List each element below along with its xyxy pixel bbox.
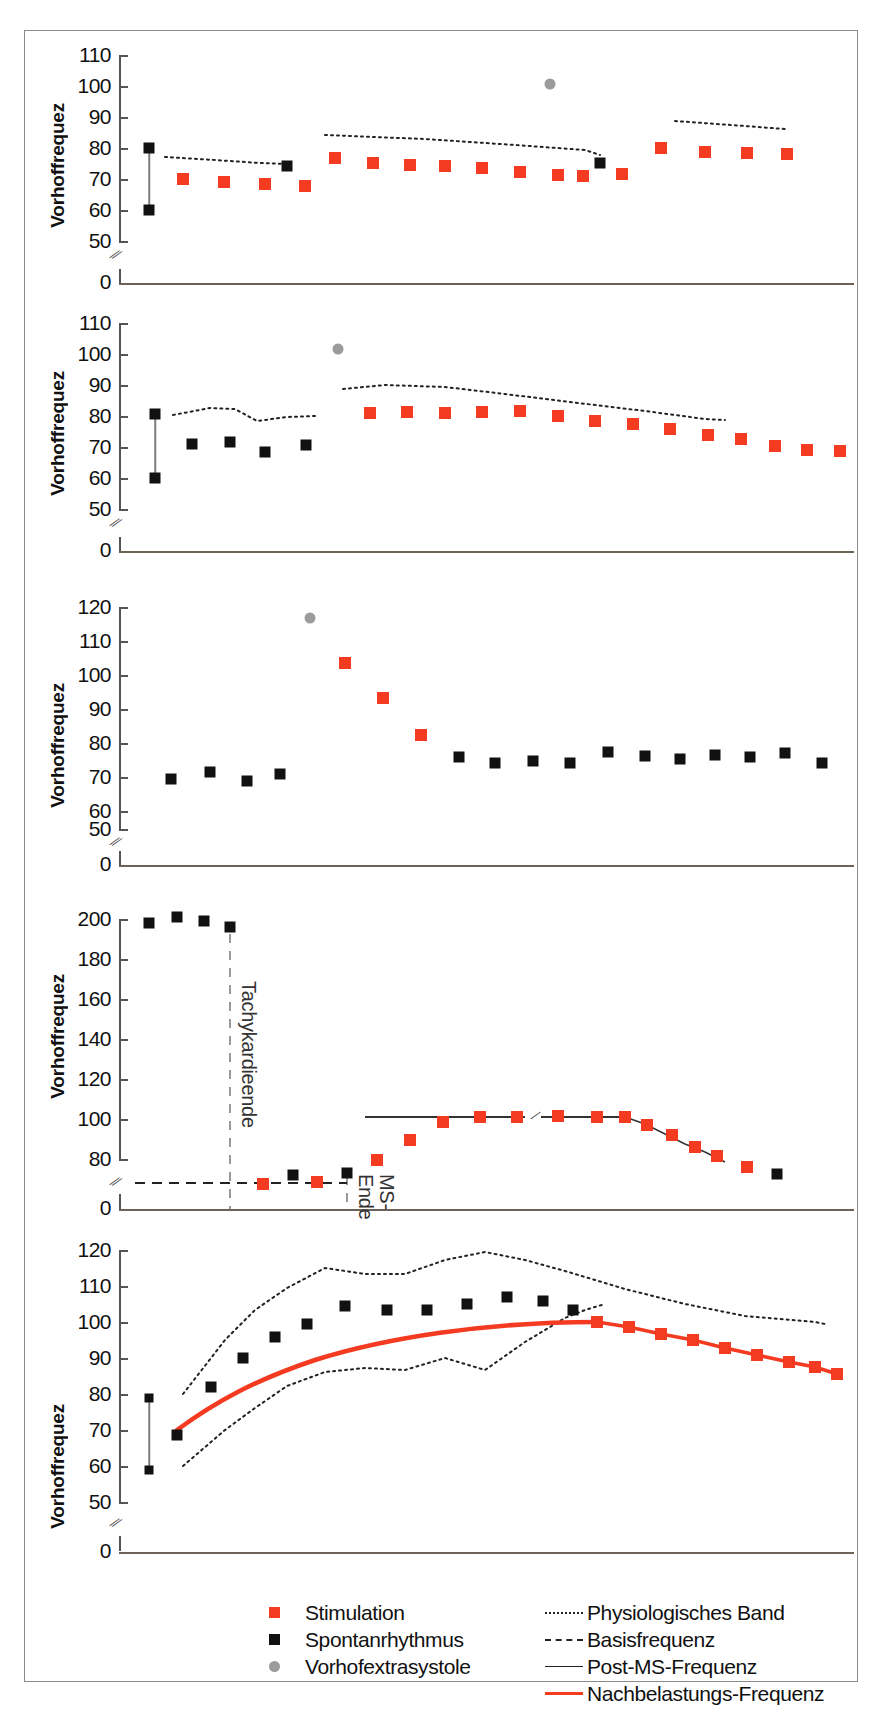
spontanrhythmus-point: [150, 409, 161, 420]
spontanrhythmus-point: [454, 752, 465, 763]
stimulation-point: [589, 415, 601, 427]
legend-column-markers: Stimulation Spontanrhythmus Vorhofextras…: [261, 1599, 471, 1680]
spontanrhythmus-point: [817, 758, 828, 769]
figure-legend: Stimulation Spontanrhythmus Vorhofextras…: [261, 1599, 861, 1707]
spontanrhythmus-point: [538, 1296, 549, 1307]
stimulation-point: [831, 1368, 843, 1380]
legend-item-stimulation: Stimulation: [261, 1599, 471, 1626]
stimulation-point: [809, 1361, 821, 1373]
stimulation-point: [377, 692, 389, 704]
spontanrhythmus-point: [206, 1382, 217, 1393]
spontanrhythmus-point: [145, 1466, 154, 1475]
spontanrhythmus-point: [301, 440, 312, 451]
spontanrhythmus-point: [205, 767, 216, 778]
spontanrhythmus-point: [270, 1332, 281, 1343]
stimulation-point: [364, 407, 376, 419]
stimulation-point: [741, 1161, 753, 1173]
red-line-icon: [543, 1692, 587, 1695]
stimulation-point: [474, 1111, 486, 1123]
stimulation-point: [404, 1134, 416, 1146]
spontanrhythmus-point: [282, 161, 293, 172]
spontanrhythmus-point: [225, 437, 236, 448]
panel-3-tick: [119, 607, 128, 609]
panel-3-axis-break-icon: ⁄⁄: [111, 833, 122, 851]
stimulation-point: [552, 410, 564, 422]
spontanrhythmus-point: [342, 1168, 353, 1179]
stimulation-point: [591, 1316, 603, 1328]
stimulation-point: [735, 433, 747, 445]
spontanrhythmus-point: [144, 143, 155, 154]
legend-item-post-ms-frequenz: Post-MS-Frequenz: [543, 1653, 824, 1680]
stimulation-point: [218, 176, 230, 188]
stimulation-point: [329, 152, 341, 164]
stimulation-point: [719, 1342, 731, 1354]
spontanrhythmus-point: [675, 754, 686, 765]
legend-label: Physiologisches Band: [587, 1601, 784, 1625]
dashed-line-icon: [543, 1639, 587, 1641]
stimulation-point: [514, 166, 526, 178]
stimulation-point: [577, 170, 589, 182]
panel-2-series-layer: [25, 299, 859, 557]
spontanrhythmus-point: [422, 1305, 433, 1316]
spontanrhythmus-point: [242, 776, 253, 787]
panel-3-ytick-110: 110: [49, 629, 111, 653]
square-black-icon: [261, 1634, 305, 1645]
spontanrhythmus-point: [603, 747, 614, 758]
figure-frame: Vorhoffrequez 110 100 90 80 70 60 50 0 ⁄…: [24, 30, 858, 1682]
panel-3-tick: [119, 641, 128, 643]
stimulation-point: [769, 440, 781, 452]
panel-4-plot: 200 180 160 140 120 100 80 0 ⁄⁄: [25, 886, 859, 1216]
stimulation-point: [699, 146, 711, 158]
panel-2-range-bar: [154, 414, 156, 478]
spontanrhythmus-point: [187, 439, 198, 450]
legend-item-physiologisches-band: Physiologisches Band: [543, 1599, 824, 1626]
legend-label: Spontanrhythmus: [305, 1628, 464, 1652]
spontanrhythmus-point: [568, 1305, 579, 1316]
stimulation-point: [257, 1178, 269, 1190]
panel-3-ytick-80: 80: [49, 731, 111, 755]
spontanrhythmus-point: [490, 758, 501, 769]
stimulation-point: [511, 1111, 523, 1123]
panel-4: Vorhoffrequez 200 180 160 140 120 100 80…: [25, 886, 859, 1216]
spontanrhythmus-point: [745, 752, 756, 763]
spontanrhythmus-point: [772, 1169, 783, 1180]
stimulation-point: [552, 169, 564, 181]
spontanrhythmus-point: [780, 748, 791, 759]
stimulation-point: [259, 178, 271, 190]
panel-3-ytick-100: 100: [49, 663, 111, 687]
vorhofextrasystole-point: [545, 79, 556, 90]
stimulation-point: [666, 1129, 678, 1141]
stimulation-point: [476, 406, 488, 418]
stimulation-point: [514, 405, 526, 417]
stimulation-point: [627, 418, 639, 430]
spontanrhythmus-point: [275, 769, 286, 780]
dotted-line-icon: [543, 1612, 587, 1614]
panel-2: Vorhoffrequez 110 100 90 80 70 60 50 0 ⁄…: [25, 299, 859, 557]
spontanrhythmus-point: [260, 447, 271, 458]
vorhofextrasystole-point: [333, 344, 344, 355]
stimulation-point: [404, 159, 416, 171]
stimulation-point: [339, 657, 351, 669]
stimulation-point: [439, 160, 451, 172]
stimulation-point: [711, 1150, 723, 1162]
stimulation-point: [415, 729, 427, 741]
panel-1: Vorhoffrequez 110 100 90 80 70 60 50 0 ⁄…: [25, 31, 859, 289]
stimulation-point: [552, 1110, 564, 1122]
panel-3-plot: 120 110 100 90 80 70 60 50 0 ⁄⁄: [25, 583, 859, 871]
panel-3: Vorhoffrequez 120 110 100 90 80 70 60 50…: [25, 583, 859, 871]
stimulation-point: [655, 142, 667, 154]
svg-text:⁄: ⁄: [528, 1106, 543, 1125]
panel-3-ytick-0: 0: [49, 852, 111, 876]
stimulation-point: [702, 429, 714, 441]
legend-item-basisfrequenz: Basisfrequenz: [543, 1626, 824, 1653]
spontanrhythmus-point: [382, 1305, 393, 1316]
stimulation-point: [664, 423, 676, 435]
stimulation-point: [834, 445, 846, 457]
solid-line-icon: [543, 1666, 587, 1667]
spontanrhythmus-point: [145, 1394, 154, 1403]
stimulation-point: [619, 1111, 631, 1123]
panel-3-tick: [119, 709, 128, 711]
stimulation-point: [616, 168, 628, 180]
stimulation-point: [623, 1321, 635, 1333]
spontanrhythmus-point: [166, 774, 177, 785]
